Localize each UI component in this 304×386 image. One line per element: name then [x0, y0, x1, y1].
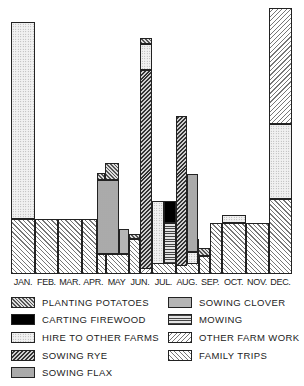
- sowing-flax-swatch-icon: [11, 367, 35, 378]
- carting-firewood-swatch-icon: [11, 314, 35, 325]
- other-farm-work-swatch-icon: [168, 332, 192, 343]
- legend-label: HIRE TO OTHER FARMS: [42, 332, 159, 344]
- sowing-rye-swatch-icon: [11, 350, 35, 361]
- sowing-clover-swatch-icon: [168, 297, 192, 308]
- legend-label: SOWING CLOVER: [199, 297, 286, 309]
- legend-label: OTHER FARM WORK: [199, 332, 299, 344]
- legend-label: PLANTING POTATOES: [42, 297, 149, 309]
- legend: PLANTING POTATOES CARTING FIREWOOD HIRE …: [0, 0, 304, 386]
- legend-label: SOWING RYE: [42, 350, 108, 362]
- legend-label: SOWING FLAX: [42, 367, 112, 379]
- hire-to-other-farms-swatch-icon: [11, 332, 35, 343]
- mowing-swatch-icon: [168, 314, 192, 325]
- legend-label: FAMILY TRIPS: [199, 350, 267, 362]
- legend-label: MOWING: [199, 314, 243, 326]
- legend-label: CARTING FIREWOOD: [42, 314, 146, 326]
- planting-potatoes-swatch-icon: [11, 297, 35, 308]
- family-trips-swatch-icon: [168, 350, 192, 361]
